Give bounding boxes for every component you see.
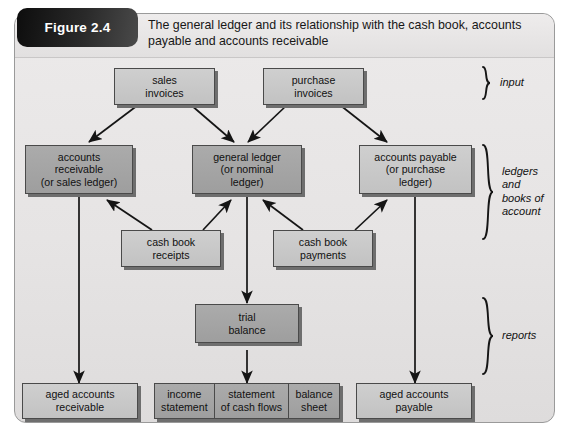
node-purchase-invoices-label: purchase invoices xyxy=(288,74,340,99)
edge-purchase-invoices-to-accounts-payable xyxy=(340,105,387,142)
node-cash-book-payments-label: cash book payments xyxy=(295,236,351,261)
node-cash-book-receipts[interactable]: cash book receipts xyxy=(121,230,221,267)
node-sales-invoices-label: sales invoices xyxy=(141,74,187,99)
edge-sales-invoices-to-accounts-receivable xyxy=(89,105,138,142)
node-accounts-payable[interactable]: accounts payable (or purchase ledger) xyxy=(359,145,472,194)
edge-cash-book-receipts-to-accounts-receivable xyxy=(107,200,152,230)
group-label-input: input xyxy=(500,76,524,89)
node-aged-accounts-payable-label: aged accounts payable xyxy=(376,388,453,413)
node-trial-balance-label: trial balance xyxy=(224,311,269,336)
node-trial-balance[interactable]: trial balance xyxy=(195,304,299,343)
figure-root: Figure 2.4 The general ledger and its re… xyxy=(0,0,569,437)
edge-cash-book-payments-to-accounts-payable xyxy=(355,200,387,230)
node-sales-invoices[interactable]: sales invoices xyxy=(114,68,215,105)
node-financial-statements[interactable]: income statement statement of cash flows… xyxy=(154,383,340,419)
node-purchase-invoices[interactable]: purchase invoices xyxy=(263,68,364,105)
cell-balance-sheet[interactable]: balance sheet xyxy=(289,384,339,418)
edge-purchase-invoices-to-general-ledger xyxy=(248,105,287,142)
edge-cash-book-payments-to-general-ledger xyxy=(263,200,303,230)
cell-statement-of-cash-flows[interactable]: statement of cash flows xyxy=(215,384,289,418)
cell-income-statement[interactable]: income statement xyxy=(155,384,215,418)
node-general-ledger-label: general ledger (or nominal ledger) xyxy=(209,151,285,189)
node-general-ledger[interactable]: general ledger (or nominal ledger) xyxy=(192,145,302,194)
node-aged-accounts-receivable-label: aged accounts receivable xyxy=(42,388,119,413)
brace-ledgers xyxy=(483,145,493,239)
node-accounts-receivable-label: accounts receivable (or sales ledger) xyxy=(37,151,122,189)
node-aged-accounts-payable[interactable]: aged accounts payable xyxy=(356,383,472,419)
node-accounts-receivable[interactable]: accounts receivable (or sales ledger) xyxy=(25,145,133,194)
brace-reports xyxy=(483,298,493,374)
node-cash-book-payments[interactable]: cash book payments xyxy=(273,230,373,267)
group-label-ledgers: ledgers and books of account xyxy=(502,165,544,219)
group-label-reports: reports xyxy=(502,329,536,342)
node-accounts-payable-label: accounts payable (or purchase ledger) xyxy=(370,151,460,189)
flowchart-canvas: sales invoices purchase invoices account… xyxy=(15,14,556,424)
edge-cash-book-receipts-to-general-ledger xyxy=(203,200,231,230)
node-aged-accounts-receivable[interactable]: aged accounts receivable xyxy=(22,383,138,419)
node-cash-book-receipts-label: cash book receipts xyxy=(143,236,199,261)
brace-input xyxy=(483,67,490,99)
edge-sales-invoices-to-general-ledger xyxy=(191,105,234,142)
figure-frame: Figure 2.4 The general ledger and its re… xyxy=(14,13,555,423)
